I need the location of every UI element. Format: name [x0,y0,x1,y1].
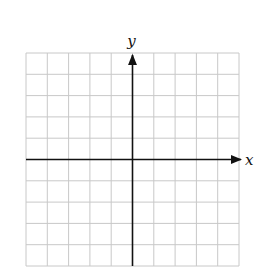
coordinate-grid: x y [0,0,257,279]
x-axis-label: x [245,151,254,169]
y-axis-label: y [126,32,136,50]
